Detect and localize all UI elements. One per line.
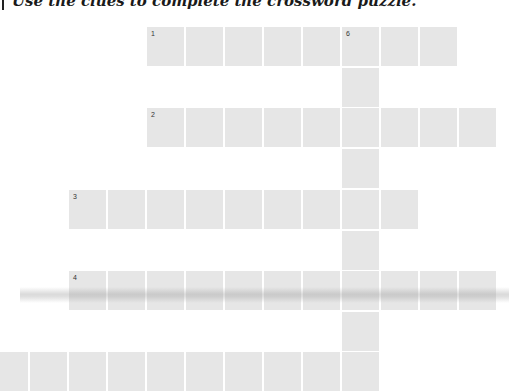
crossword-cell[interactable] bbox=[459, 108, 496, 147]
crossword-cell[interactable] bbox=[30, 352, 67, 391]
crossword-cell[interactable] bbox=[264, 271, 301, 310]
crossword-cell[interactable] bbox=[303, 108, 340, 147]
crossword-cell[interactable] bbox=[186, 190, 223, 229]
crossword-cell[interactable] bbox=[303, 27, 340, 66]
crossword-cell[interactable] bbox=[225, 108, 262, 147]
crossword-cell[interactable] bbox=[225, 190, 262, 229]
crossword-cell[interactable] bbox=[108, 271, 145, 310]
clue-number: 6 bbox=[346, 30, 350, 38]
crossword-cell[interactable] bbox=[108, 190, 145, 229]
crossword-cell[interactable] bbox=[303, 271, 340, 310]
crossword-cell[interactable]: 3 bbox=[69, 190, 106, 229]
crossword-cell[interactable] bbox=[0, 352, 28, 391]
crossword-cell[interactable]: 4 bbox=[69, 271, 106, 310]
crossword-cell[interactable] bbox=[225, 271, 262, 310]
crossword-cell[interactable] bbox=[381, 27, 418, 66]
clue-number: 2 bbox=[151, 111, 155, 119]
crossword-cell[interactable] bbox=[342, 68, 379, 107]
crossword-cell[interactable] bbox=[381, 190, 418, 229]
clue-number: 3 bbox=[73, 193, 77, 201]
crossword-cell[interactable] bbox=[147, 352, 184, 391]
crossword-cell[interactable] bbox=[342, 312, 379, 351]
crossword-cell[interactable] bbox=[342, 108, 379, 147]
crossword-cell[interactable] bbox=[420, 271, 457, 310]
crossword-cell[interactable] bbox=[303, 190, 340, 229]
crossword-cell[interactable] bbox=[264, 352, 301, 391]
crossword-cell[interactable] bbox=[264, 190, 301, 229]
crossword-cell[interactable] bbox=[342, 352, 379, 391]
crossword-cell[interactable] bbox=[147, 190, 184, 229]
crossword-cell[interactable] bbox=[420, 108, 457, 147]
crossword-cell[interactable] bbox=[342, 149, 379, 188]
crossword-cell[interactable]: 2 bbox=[147, 108, 184, 147]
crossword-cell[interactable] bbox=[186, 271, 223, 310]
crossword-cell[interactable]: 1 bbox=[147, 27, 184, 66]
crossword-cell[interactable] bbox=[186, 27, 223, 66]
crossword-cell[interactable] bbox=[264, 27, 301, 66]
crossword-cell[interactable] bbox=[342, 231, 379, 270]
crossword-cell[interactable] bbox=[108, 352, 145, 391]
crossword-cell[interactable] bbox=[186, 352, 223, 391]
crossword-cell[interactable] bbox=[69, 352, 106, 391]
crossword-cell[interactable] bbox=[147, 271, 184, 310]
crossword-cell[interactable] bbox=[225, 352, 262, 391]
crossword-cell[interactable] bbox=[459, 271, 496, 310]
crossword-cell[interactable] bbox=[342, 271, 379, 310]
crossword-cell[interactable] bbox=[381, 271, 418, 310]
crossword-cell[interactable] bbox=[303, 352, 340, 391]
crossword-cell[interactable] bbox=[186, 108, 223, 147]
clue-number: 1 bbox=[151, 30, 155, 38]
crossword-cell[interactable] bbox=[264, 108, 301, 147]
crossword-cell[interactable] bbox=[420, 27, 457, 66]
crossword-cell[interactable] bbox=[381, 108, 418, 147]
clue-number: 4 bbox=[73, 274, 77, 282]
crossword-cell[interactable] bbox=[225, 27, 262, 66]
crossword-cell[interactable]: 6 bbox=[342, 27, 379, 66]
crossword-cell[interactable] bbox=[342, 190, 379, 229]
